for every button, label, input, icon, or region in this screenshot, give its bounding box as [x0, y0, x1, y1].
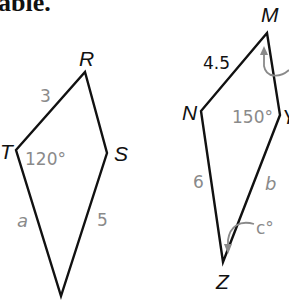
arrowhead-icon-M — [260, 46, 268, 55]
angle-measure-c: c° — [256, 218, 274, 238]
vertex-label-M: M — [261, 3, 279, 26]
arrowhead-icon-Z — [224, 244, 232, 254]
side-measure-TR: 3 — [40, 86, 51, 106]
vertex-label-Z: Z — [215, 270, 230, 293]
angle-measure-T: 120° — [25, 149, 66, 169]
kite-left-outline — [16, 72, 107, 296]
vertex-label-N: N — [182, 101, 198, 124]
angle-arc-M — [264, 52, 289, 76]
angle-arc-Z — [228, 223, 254, 247]
vertex-label-R: R — [79, 47, 94, 70]
kite-right: M Y Z N 4.5 150° 6 b c° — [182, 3, 289, 293]
side-measure-b: b — [265, 173, 276, 194]
vertex-label-S: S — [114, 142, 128, 165]
side-measure-5: 5 — [97, 210, 108, 230]
kite-left: R S T 3 120° a 5 — [0, 47, 128, 296]
diagram-canvas: R S T 3 120° a 5 M Y Z N 4.5 150° 6 b c° — [0, 0, 289, 301]
side-measure-NM: 4.5 — [203, 53, 230, 73]
side-measure-NZ: 6 — [193, 172, 204, 192]
angle-measure-Y: 150° — [232, 107, 273, 127]
vertex-label-Y: Y — [282, 105, 289, 128]
vertex-label-T: T — [0, 140, 15, 163]
side-measure-a: a — [17, 210, 28, 231]
